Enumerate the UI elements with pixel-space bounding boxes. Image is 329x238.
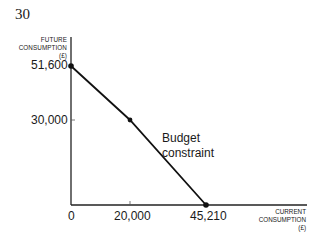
- x-tick-label-0: 0: [68, 209, 75, 223]
- x-axis-label: CURRENT CONSUMPTION (£): [250, 208, 306, 232]
- point-y-intercept: [68, 63, 74, 69]
- y-tick-label-30000: 30,000: [31, 113, 68, 127]
- x-tick-label-45210: 45,210: [190, 209, 227, 223]
- point-20000-30000: [128, 118, 133, 123]
- point-x-intercept: [203, 202, 209, 208]
- y-tick-label-51600: 51,600: [31, 58, 68, 72]
- x-tick-label-20000: 20,000: [114, 209, 151, 223]
- y-axis-label: FUTURE CONSUMPTION (£): [19, 36, 67, 60]
- budget-constraint-annotation: Budget constraint: [162, 131, 214, 161]
